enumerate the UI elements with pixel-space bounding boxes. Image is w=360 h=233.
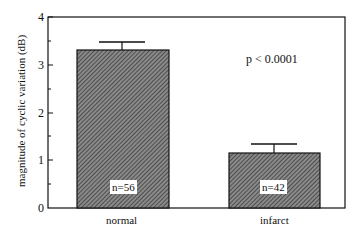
p-value-annotation: p < 0.0001	[246, 52, 298, 67]
y-tick-3: 3	[32, 58, 44, 73]
y-axis-ticks	[48, 17, 53, 184]
y-tick-0: 0	[32, 201, 44, 216]
y-tick-1: 1	[32, 153, 44, 168]
x-label-normal: normal	[106, 214, 137, 226]
y-tick-4: 4	[32, 10, 44, 25]
y-tick-2: 2	[32, 106, 44, 121]
chart-canvas	[0, 0, 360, 233]
n-label-infarct: n=42	[260, 180, 287, 194]
n-label-normal: n=56	[110, 180, 137, 194]
y-axis-label: magnitude of cyclic variation (dB)	[15, 26, 27, 196]
x-label-infarct: infarct	[260, 214, 289, 226]
